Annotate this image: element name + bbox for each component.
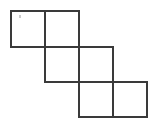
figure-background bbox=[0, 0, 153, 122]
scan-artifact-speck bbox=[19, 15, 21, 18]
staircase-polyomino-diagram: Staircase polyomino of six unit squares … bbox=[0, 0, 153, 122]
figure-canvas: Staircase polyomino of six unit squares … bbox=[0, 0, 153, 122]
